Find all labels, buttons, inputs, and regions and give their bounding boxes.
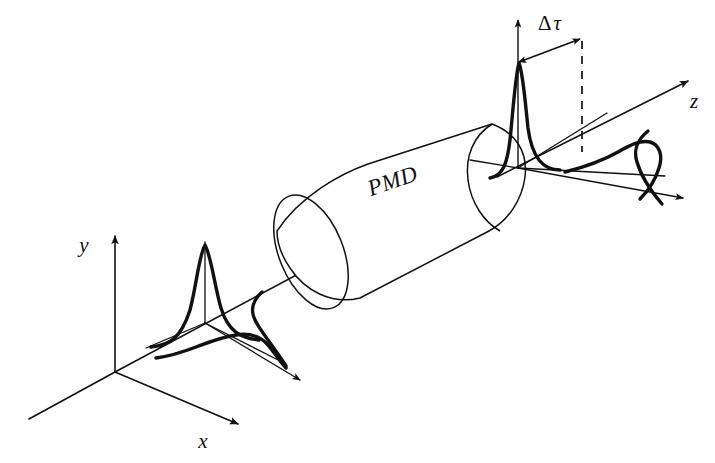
y-axis-label: y <box>77 233 89 257</box>
x-axis-label: x <box>197 429 208 453</box>
z-axis-label: z <box>689 89 698 113</box>
delay-label: Δτ <box>538 11 563 35</box>
pmd-diagram: y x <box>0 0 715 463</box>
figure-root: y x <box>0 0 715 463</box>
delta-symbol: Δ <box>538 11 552 35</box>
